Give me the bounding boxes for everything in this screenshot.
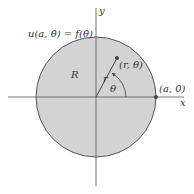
boundary-point-label: (a, 0) [159, 83, 186, 94]
y-axis-label: y [98, 5, 105, 16]
point-a-0 [154, 95, 158, 99]
x-axis-label: x [180, 97, 186, 108]
polar-disk-diagram: u(a, θ) = f(θ) R (r, θ) r θ (a, 0) x y [0, 0, 194, 194]
region-label: R [70, 69, 79, 80]
point-label: (r, θ) [119, 59, 143, 70]
boundary-condition-label: u(a, θ) = f(θ) [28, 28, 93, 39]
angle-label: θ [110, 83, 116, 94]
